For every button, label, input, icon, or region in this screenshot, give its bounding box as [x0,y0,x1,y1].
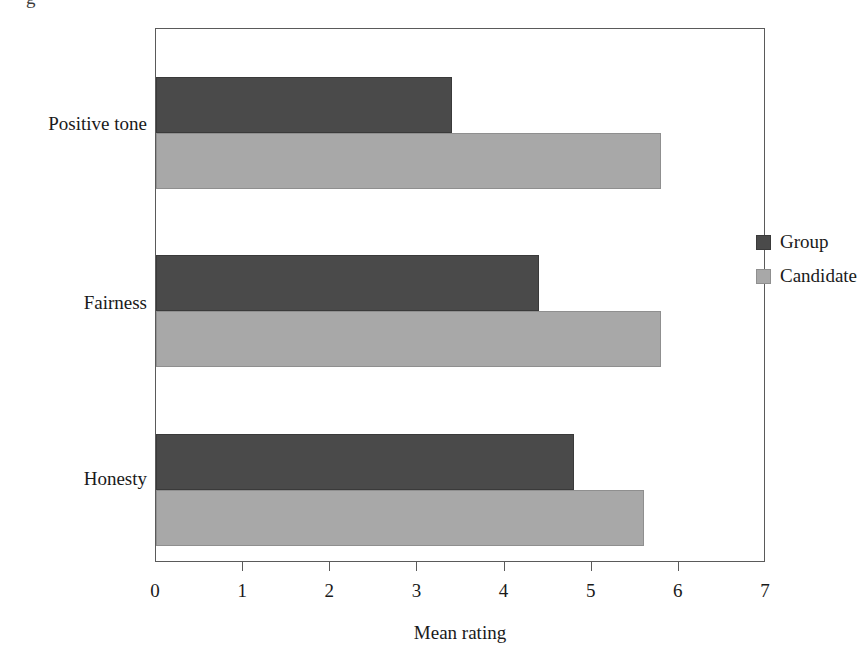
legend-item-candidate: Candidate [756,259,857,293]
legend-label-group: Group [780,231,829,253]
x-axis-tick-label-3: 3 [396,580,436,602]
plot-area [156,29,764,561]
x-axis-tick-6 [678,562,679,571]
x-axis-tick-4 [504,562,505,571]
chart-legend: GroupCandidate [756,225,857,293]
x-axis-tick-label-7: 7 [745,580,785,602]
x-axis-tick-label-1: 1 [222,580,262,602]
y-axis-label-honesty: Honesty [84,468,147,490]
legend-swatch-icon-candidate [756,269,771,284]
x-axis-title: Mean rating [155,622,765,644]
bar-candidate-honesty [156,490,644,546]
legend-label-candidate: Candidate [780,265,857,287]
x-axis-tick-label-4: 4 [484,580,524,602]
x-axis-tick-label-6: 6 [658,580,698,602]
bar-group-positive-tone [156,77,452,133]
plot-frame: GroupCandidate [155,28,765,562]
x-axis-tick-2 [329,562,330,571]
x-axis-tick-5 [591,562,592,571]
bar-group-honesty [156,434,574,490]
bar-group-fairness [156,255,539,311]
legend-item-group: Group [756,225,857,259]
bar-candidate-fairness [156,311,661,367]
x-axis-tick-1 [242,562,243,571]
cut-off-caption-fragment: g [26,0,36,9]
x-axis-tick-label-5: 5 [571,580,611,602]
y-axis-label-positive-tone: Positive tone [48,113,147,135]
x-axis-tick-3 [416,562,417,571]
legend-swatch-icon-group [756,235,771,250]
x-axis-tick-label-0: 0 [135,580,175,602]
x-axis-tick-label-2: 2 [309,580,349,602]
y-axis-label-fairness: Fairness [84,292,147,314]
bar-candidate-positive-tone [156,133,661,189]
